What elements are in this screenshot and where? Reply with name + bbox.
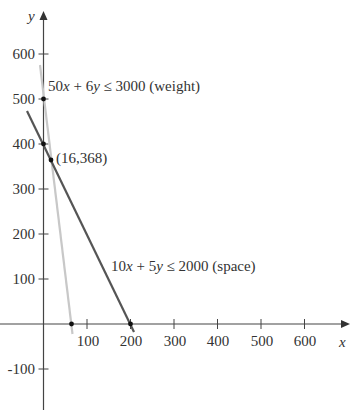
y-tick-label: 600 (13, 46, 36, 62)
x-tick-label: 600 (294, 333, 317, 349)
y-tick-label: 300 (13, 181, 36, 197)
point-space-y-intercept (41, 142, 46, 147)
y-axis-arrow-icon (40, 11, 48, 20)
x-tick-label: 300 (164, 333, 187, 349)
x-axis (0, 320, 350, 328)
space-constraint-label: 10x + 5y ≤ 2000 (space) (111, 258, 256, 275)
y-tick-label: 200 (13, 226, 36, 242)
data-points (41, 97, 133, 327)
y-axis-label: y (26, 8, 35, 24)
weight-constraint-line (40, 65, 73, 334)
feasible-region-chart: 100 200 300 400 500 600 x 600 500 400 30… (0, 0, 358, 412)
x-tick-label: 200 (120, 333, 143, 349)
x-axis-arrow-icon (341, 320, 350, 328)
y-tick-label: -100 (8, 361, 36, 377)
x-tick-labels: 100 200 300 400 500 600 (77, 333, 317, 349)
intersection-label: (16,368) (56, 150, 107, 167)
y-tick-label: 400 (13, 136, 36, 152)
weight-constraint-label: 50x + 6y ≤ 3000 (weight) (48, 78, 200, 95)
x-tick-label: 100 (77, 333, 100, 349)
y-tick-label: 500 (13, 91, 36, 107)
point-weight-x-intercept (69, 322, 74, 327)
x-axis-label: x (338, 334, 346, 350)
point-weight-y-intercept (41, 97, 46, 102)
y-tick-label: 100 (13, 271, 36, 287)
x-tick-label: 400 (207, 333, 230, 349)
x-tick-label: 500 (251, 333, 274, 349)
y-tick-labels: 600 500 400 300 200 100 -100 (8, 46, 36, 377)
point-intersection (49, 158, 54, 163)
point-space-x-intercept (128, 322, 133, 327)
